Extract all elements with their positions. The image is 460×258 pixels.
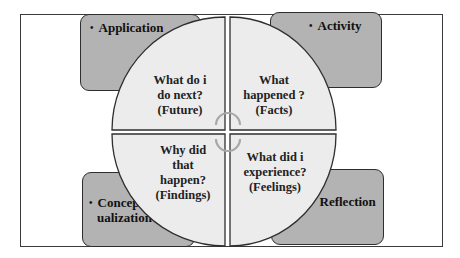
cycle-wheel	[0, 0, 460, 258]
quadrant-bottom-left-text: Why did that happen? (Findings)	[145, 143, 221, 203]
quadrant-top-right-text: What happened ? (Facts)	[232, 73, 316, 118]
quadrant-bottom-right-text: What did i experience? (Feelings)	[232, 150, 318, 195]
quadrant-top-left-text: What do i do next? (Future)	[140, 73, 220, 118]
